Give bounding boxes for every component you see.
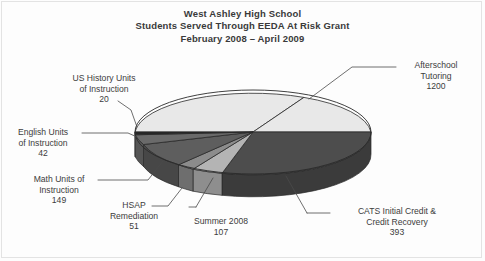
label-math-line2: Instruction	[18, 185, 100, 196]
label-afterschool-tutoring: Afterschool Tutoring 1200	[390, 60, 482, 92]
label-hsap-line2: Remediation	[98, 211, 170, 222]
label-cats-initial-credit: CATS Initial Credit & Credit Recovery 39…	[322, 206, 472, 238]
label-cats-line1: CATS Initial Credit &	[322, 206, 472, 217]
label-cats-value: 393	[322, 227, 472, 238]
pie-3d-group	[135, 90, 371, 197]
label-summer-line1: Summer 2008	[182, 216, 260, 227]
label-afterschool-line2: Tutoring	[390, 71, 482, 82]
label-ushistory-line1: US History Units	[58, 73, 150, 84]
leader-ushistory	[118, 101, 137, 127]
label-hsap-line1: HSAP	[98, 200, 170, 211]
label-math-line1: Math Units of	[18, 174, 100, 185]
leader-english	[82, 133, 137, 137]
label-math-value: 149	[18, 195, 100, 206]
label-hsap-value: 51	[98, 221, 170, 232]
label-afterschool-line1: Afterschool	[390, 60, 482, 71]
label-summer-value: 107	[182, 227, 260, 238]
label-english-line1: English Units	[2, 127, 84, 138]
chart-canvas: West Ashley High School Students Served …	[0, 0, 485, 261]
label-summer-2008: Summer 2008 107	[182, 216, 260, 237]
label-ushistory-line2: of Instruction	[58, 84, 150, 95]
label-english-units: English Units of Instruction 42	[2, 127, 84, 159]
label-hsap-remediation: HSAP Remediation 51	[98, 200, 170, 232]
label-english-value: 42	[2, 148, 84, 159]
label-us-history-units: US History Units of Instruction 20	[58, 73, 150, 105]
label-cats-line2: Credit Recovery	[322, 217, 472, 228]
label-math-units: Math Units of Instruction 149	[18, 174, 100, 206]
label-english-line2: of Instruction	[2, 138, 84, 149]
label-ushistory-value: 20	[58, 94, 150, 105]
leader-afterschool	[309, 67, 396, 99]
label-afterschool-value: 1200	[390, 81, 482, 92]
